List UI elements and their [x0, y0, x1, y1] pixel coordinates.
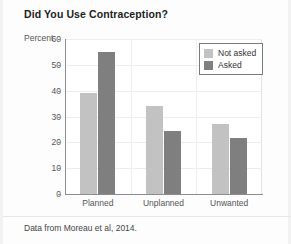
legend-swatch-not-asked [204, 49, 213, 58]
bar-unwanted-not-asked [212, 124, 229, 194]
legend-swatch-asked [204, 61, 213, 70]
bar-unwanted-asked [230, 138, 247, 194]
y-tick-mark [58, 142, 61, 143]
x-axis-label-unplanned: Unplanned [143, 198, 184, 208]
y-axis-line [65, 39, 66, 195]
y-tick-mark [58, 39, 61, 40]
vertical-gridline [196, 39, 197, 194]
bar-planned-asked [98, 52, 115, 194]
legend-item: Asked [204, 59, 256, 71]
footer-divider [3, 216, 291, 217]
y-tick-mark [58, 168, 61, 169]
x-axis-label-planned: Planned [82, 198, 113, 208]
y-tick-mark [58, 91, 61, 92]
legend-label-asked: Asked [218, 60, 242, 70]
chart-title: Did You Use Contraception? [24, 8, 168, 20]
y-tick-mark [58, 117, 61, 118]
vertical-gridline [131, 39, 132, 194]
y-tick-mark [58, 65, 61, 66]
gridline [65, 39, 262, 40]
legend-label-not-asked: Not asked [218, 48, 256, 58]
bar-unplanned-asked [164, 131, 181, 194]
bar-unplanned-not-asked [146, 106, 163, 194]
x-axis-line [65, 194, 263, 195]
y-axis-ticks: 0102030405060 [39, 39, 61, 195]
source-note: Data from Moreau et al, 2014. [24, 223, 137, 233]
x-axis-label-unwanted: Unwanted [210, 198, 248, 208]
chart-card: Did You Use Contraception? Percent 01020… [0, 0, 291, 244]
legend-item: Not asked [204, 47, 256, 59]
gridline [65, 91, 262, 92]
y-tick-mark [58, 194, 61, 195]
bar-planned-not-asked [80, 93, 97, 194]
chart-legend: Not asked Asked [199, 43, 263, 75]
